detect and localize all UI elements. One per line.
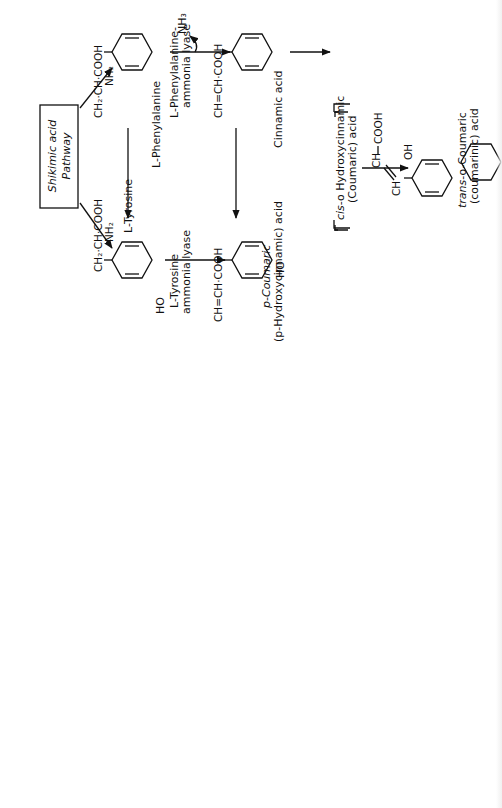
pathway-diagram: Shikimic acid Pathway CH₂·CH·COOH NH₂ L-… [0, 0, 502, 808]
page-edge-shadow [496, 0, 502, 808]
